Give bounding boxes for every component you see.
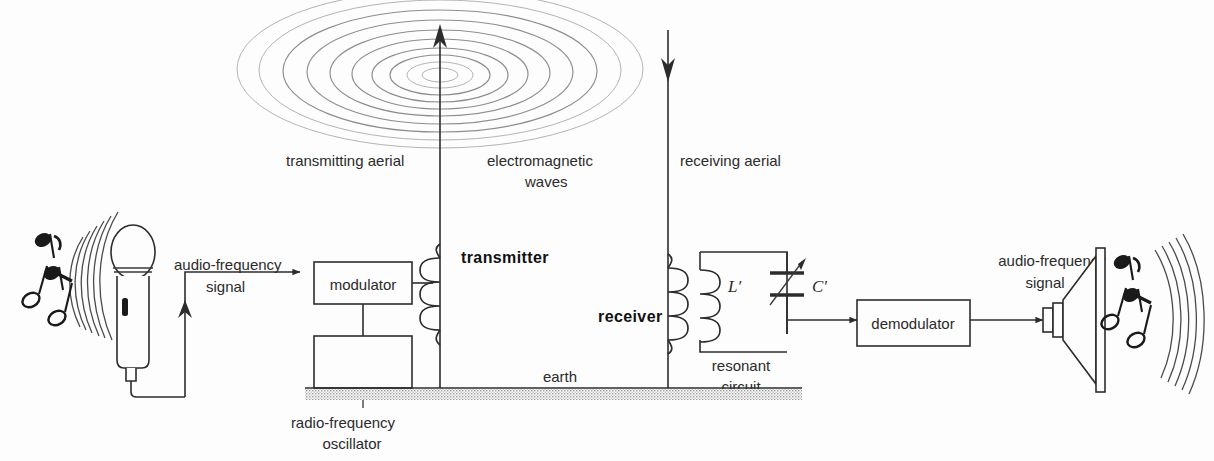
ground-hatching (305, 389, 802, 400)
capacitor-symbol-label: C′ (812, 277, 827, 296)
inductor-symbol-label: L′ (727, 277, 741, 296)
output-sound-waves (1155, 234, 1204, 394)
diagram-canvas: transmitting aerial electromagnetic wave… (0, 0, 1214, 461)
audio-frequency-signal-left-line1: audio-frequency (174, 256, 282, 273)
modulator-block: modulator (314, 262, 433, 336)
resonant-circuit-label-line1: resonant (712, 357, 771, 374)
receiving-aerial (661, 30, 675, 388)
transmitting-aerial-label: transmitting aerial (286, 152, 404, 169)
earth-ground (305, 388, 802, 400)
electromagnetic-waves-label-line2: waves (524, 173, 568, 190)
variable-capacitor-C-prime (770, 252, 806, 334)
transmitting-aerial (433, 24, 447, 388)
radio-transmission-diagram: transmitting aerial electromagnetic wave… (0, 0, 1214, 461)
demodulator-block: demodulator (857, 300, 970, 346)
loudspeaker (1043, 248, 1105, 392)
microphone (111, 225, 185, 397)
rf-oscillator-label-line1: radio-frequency (291, 414, 396, 431)
modulator-label: modulator (330, 276, 397, 293)
resonant-circuit: L′ C′ resonant circuit (700, 252, 827, 395)
input-music-notes (20, 231, 72, 328)
electromagnetic-waves-label-line1: electromagnetic (487, 152, 593, 169)
receiver-label: receiver (598, 308, 663, 325)
transmitter-label: transmitter (461, 249, 549, 266)
receiving-aerial-label: receiving aerial (680, 152, 781, 169)
audio-frequency-signal-right-line2: signal (1025, 274, 1064, 291)
inductor-L-prime (700, 270, 720, 342)
receiver-coil (668, 254, 688, 354)
demodulator-label: demodulator (871, 315, 954, 332)
earth-label: earth (543, 368, 577, 385)
transmitter-coil (420, 244, 440, 345)
rf-oscillator-label-line2: oscillator (322, 435, 381, 452)
output-music-notes (1099, 253, 1151, 350)
input-sound-waves (70, 212, 118, 340)
audio-frequency-signal-left-line2: signal (206, 278, 245, 295)
